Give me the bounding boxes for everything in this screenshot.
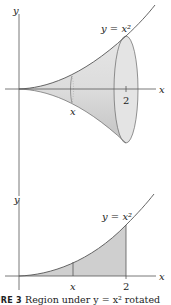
cross-section-label: x xyxy=(70,106,76,117)
curve-label-top: y = x² xyxy=(100,23,131,34)
caption-text: Region under y = x² rotated xyxy=(25,294,160,305)
top-panel: y x y = x² x 2 xyxy=(5,5,165,196)
x-axis-label-top: x xyxy=(159,84,165,95)
shaded-region xyxy=(19,225,126,276)
tick-label-2-bottom: 2 xyxy=(123,281,129,292)
figure-caption: URE 3 Region under y = x² rotated xyxy=(0,294,160,305)
caption-prefix: URE 3 xyxy=(0,296,22,305)
marker-label-x-bottom: x xyxy=(70,281,76,292)
solid-of-revolution xyxy=(19,36,126,143)
y-axis-label-top: y xyxy=(12,5,19,16)
bottom-panel: y x y = x² x 2 xyxy=(5,194,165,292)
y-axis-label-bottom: y xyxy=(13,194,20,205)
curve-label-bottom: y = x² xyxy=(101,211,132,222)
x-axis-label-bottom: x xyxy=(159,271,165,282)
tick-label-2-top: 2 xyxy=(123,95,129,106)
